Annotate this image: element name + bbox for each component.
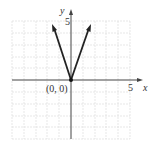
y-axis-label: y bbox=[60, 6, 64, 16]
y-tick-label: 5 bbox=[65, 17, 70, 27]
origin-point bbox=[69, 78, 73, 82]
left-arrow-icon bbox=[52, 24, 57, 32]
x-axis-label: x bbox=[143, 83, 147, 93]
right-arrow-icon bbox=[86, 24, 91, 32]
origin-label: (0, 0) bbox=[46, 84, 68, 94]
axes bbox=[12, 12, 140, 139]
coordinate-plane bbox=[0, 0, 154, 146]
x-tick-label: 5 bbox=[128, 83, 133, 93]
y-axis-arrow-icon bbox=[69, 9, 73, 15]
